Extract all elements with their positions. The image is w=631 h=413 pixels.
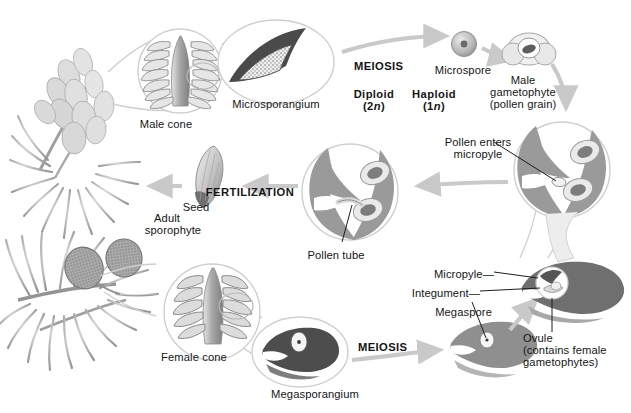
label-meiosis-top: MEIOSIS [354, 60, 403, 72]
female-cone-detail [164, 264, 260, 360]
label-megaspore: Megaspore [435, 306, 492, 318]
male-cone-detail [138, 29, 222, 113]
label-male-cone: Male cone [140, 118, 193, 130]
label-male-gametophyte-line2: gametophyte [490, 86, 556, 98]
label-adult-sporophyte-line1: Adult [154, 212, 180, 224]
microsporangium-detail [218, 20, 334, 104]
label-ovule-line3: gametophytes) [523, 356, 598, 368]
label-female-cone: Female cone [161, 351, 227, 363]
label-seed: Seed [183, 201, 210, 213]
label-adult-sporophyte-line2: sporophyte [145, 224, 201, 236]
label-pollen-enters-line1: Pollen enters [445, 136, 512, 148]
label-pollen-enters-line2: micropyle [454, 148, 503, 160]
label-ovule-line1: Ovule [523, 332, 553, 344]
megasporangium-detail [252, 317, 348, 387]
label-pollen-tube: Pollen tube [307, 249, 364, 261]
label-integument: Integument— [412, 287, 480, 299]
label-haploid: Haploid [412, 88, 456, 100]
pine-life-cycle-figure: Male cone Microsporangium MEIOSIS Micros… [0, 0, 631, 413]
label-microspore: Microspore [435, 64, 491, 76]
label-diploid-n: (2n) [363, 100, 385, 112]
microspore-illustration [452, 32, 477, 57]
label-male-gametophyte-line3: (pollen grain) [490, 98, 557, 110]
label-microsporangium: Microsporangium [232, 98, 319, 110]
label-megasporangium: Megasporangium [271, 388, 359, 400]
label-micropyle: Micropyle— [434, 268, 494, 280]
label-ovule-line2: (contains female [523, 344, 607, 356]
label-male-gametophyte-line1: Male [511, 74, 536, 86]
label-fertilization: FERTILIZATION [206, 186, 294, 198]
label-diploid: Diploid [354, 88, 395, 100]
label-meiosis-bottom: MEIOSIS [358, 341, 407, 353]
label-haploid-n: (1n) [423, 100, 445, 112]
